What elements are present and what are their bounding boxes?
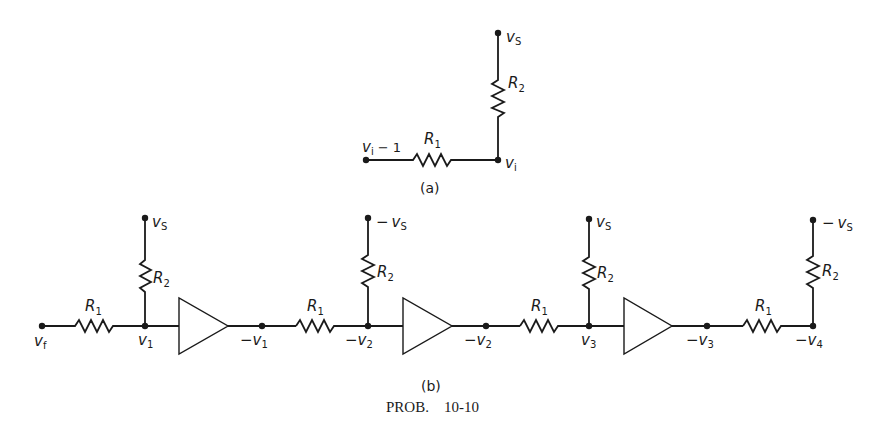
stage-4-r1-label: R1 [755,297,772,317]
part-b-caption: (b) [421,378,441,394]
part-a-caption: (a) [420,180,440,196]
stage-3-r2-label: R2 [597,264,614,284]
part-a-r2-label: R2 [508,74,525,94]
part-b-circuit: vf vS R2 R1 v1 −v1 −vS R2 R [34,213,853,394]
stage-1-r2-label: R2 [153,269,170,289]
part-a-supply-node [495,30,501,36]
stage-3-output-label: −v3 [686,331,714,350]
part-a-r1-label: R1 [424,130,441,150]
stage-2: −vS R2 R1 −v2 −v2 [296,213,520,354]
stage-2-node-label: −v2 [345,331,373,350]
stage-1-amplifier [179,298,228,354]
stage-3-r1-label: R1 [531,297,548,317]
stage-2-r2-resistor [362,218,374,326]
stage-3-amplifier [624,298,672,354]
part-a-left-label: vi − 1 [362,138,401,157]
part-a-left-node [363,157,369,163]
part-a-right-node [495,157,501,163]
stage-3: vS R2 R1 v3 −v3 [520,213,743,354]
stage-4-r2-label: R2 [822,262,839,282]
stage-3-supply-label: vS [596,213,611,232]
stage-1-r1-resistor [42,320,179,332]
part-a-supply-label: vS [506,28,521,47]
stage-1-node-label: v1 [138,331,153,350]
stage-3-r1-resistor [520,320,624,332]
part-a-right-label: vi [505,154,517,173]
stage-4-supply-label: −vS [822,214,853,233]
stage-2-r1-label: R1 [307,297,324,317]
circuit-diagram: vS R2 R1 vi − 1 vi (a) vf vS R2 R1 v1 −v… [0,0,879,432]
problem-caption: PROB. 10-10 [386,399,479,415]
stage-2-amplifier [403,298,452,354]
stage-4: −vS R2 R1 −v4 [743,214,853,350]
stage-2-supply-label: −vS [376,213,407,232]
stage-1-r2-resistor [140,218,151,326]
stage-2-r2-label: R2 [377,263,394,283]
part-a-circuit: vS R2 R1 vi − 1 vi (a) [362,28,525,196]
stage-4-r2-resistor [807,220,819,326]
stage-3-node-label: v3 [581,331,596,350]
stage-4-node-label: −v4 [795,331,823,350]
input-label: vf [34,332,47,351]
stage-1-supply-label: vS [152,213,167,232]
part-a-r2-resistor [492,33,504,160]
part-a-r1-resistor [366,154,498,166]
stage-1: vS R2 R1 v1 −v1 [42,213,296,354]
stage-1-r1-label: R1 [85,297,102,317]
stage-1-output-label: −v1 [240,331,268,350]
stage-3-r2-resistor [583,219,595,326]
stage-2-output-label: −v2 [464,331,492,350]
